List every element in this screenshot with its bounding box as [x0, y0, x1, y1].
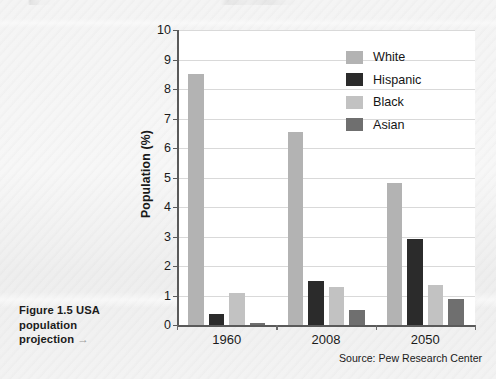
x-tick-mark	[276, 325, 277, 330]
bar-2050-black	[428, 285, 444, 325]
legend-swatch-hispanic	[346, 73, 363, 86]
caption-line-1: Figure 1.5 USA	[19, 304, 100, 316]
x-axis-line	[177, 325, 476, 327]
legend-label-black: Black	[373, 95, 404, 109]
y-tick-mark	[173, 30, 177, 31]
gridline	[177, 207, 475, 208]
y-tick-mark	[173, 207, 177, 208]
y-tick-label: 9	[150, 53, 171, 67]
x-tick-mark	[177, 325, 178, 330]
gridline	[177, 60, 475, 61]
y-tick-label: 4	[150, 200, 171, 214]
plot-area	[177, 30, 475, 325]
legend-item-asian[interactable]: Asian	[346, 114, 421, 137]
x-tick-label-2050: 2050	[411, 332, 440, 347]
legend-item-white[interactable]: White	[346, 46, 421, 69]
figure-page: Figure 1.5 USA population projection → P…	[0, 0, 496, 379]
y-axis-line	[177, 30, 179, 325]
gridline	[177, 266, 475, 267]
legend-swatch-asian	[346, 118, 363, 131]
y-tick-mark	[173, 178, 177, 179]
bar-2050-hispanic	[407, 239, 423, 325]
bar-1960-white	[188, 74, 204, 325]
caption-line-2: population	[19, 319, 77, 331]
y-tick-mark	[173, 266, 177, 267]
y-tick-mark	[173, 237, 177, 238]
y-tick-label: 1	[150, 289, 171, 303]
y-tick-label: 3	[150, 230, 171, 244]
bar-2050-white	[387, 183, 403, 325]
figure-caption: Figure 1.5 USA population projection →	[19, 303, 141, 347]
caption-line-3: projection	[19, 333, 74, 345]
cropped-text-remnant	[0, 0, 496, 5]
legend-label-white: White	[373, 50, 405, 64]
bar-2008-black	[329, 287, 345, 325]
y-tick-mark	[173, 119, 177, 120]
x-tick-label-1960: 1960	[212, 332, 241, 347]
y-tick-label: 5	[150, 171, 171, 185]
x-tick-mark	[475, 325, 476, 330]
legend-label-asian: Asian	[373, 118, 405, 132]
y-tick-mark	[173, 89, 177, 90]
bar-2008-hispanic	[308, 281, 324, 325]
gridline	[177, 178, 475, 179]
x-tick-label-2008: 2008	[312, 332, 341, 347]
y-tick-mark	[173, 296, 177, 297]
y-tick-label: 10	[150, 23, 171, 37]
chart-legend: WhiteHispanicBlackAsian	[346, 46, 421, 136]
legend-swatch-white	[346, 51, 363, 64]
bar-1960-hispanic	[209, 314, 225, 325]
x-tick-mark	[376, 325, 377, 330]
gridline	[177, 237, 475, 238]
gridline	[177, 119, 475, 120]
bar-chart: Population (%) 012345678910 196020082050…	[150, 22, 482, 334]
y-tick-label: 0	[150, 318, 171, 332]
bar-1960-black	[229, 293, 245, 325]
y-tick-mark	[173, 60, 177, 61]
source-note: Source: Pew Research Center	[339, 352, 482, 364]
gridline	[177, 30, 475, 31]
y-tick-label: 8	[150, 82, 171, 96]
y-tick-label: 6	[150, 141, 171, 155]
bar-2008-asian	[349, 310, 365, 325]
caption-arrow-icon: →	[77, 333, 89, 345]
legend-item-hispanic[interactable]: Hispanic	[346, 69, 421, 92]
legend-swatch-black	[346, 96, 363, 109]
gridline	[177, 89, 475, 90]
y-tick-label: 2	[150, 259, 171, 273]
legend-item-black[interactable]: Black	[346, 91, 421, 114]
bar-2050-asian	[448, 299, 464, 325]
gridline	[177, 148, 475, 149]
bar-2008-white	[288, 132, 304, 325]
y-tick-label: 7	[150, 112, 171, 126]
y-tick-mark	[173, 148, 177, 149]
legend-label-hispanic: Hispanic	[373, 73, 421, 87]
